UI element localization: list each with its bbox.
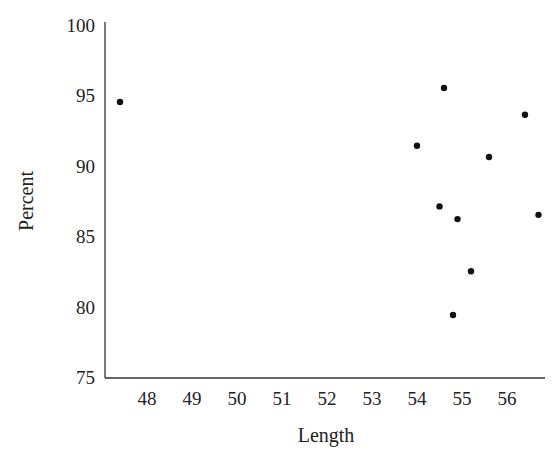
axes — [105, 22, 545, 378]
data-point — [535, 212, 541, 218]
x-tick-labels: 484950515253545556 — [138, 388, 517, 409]
data-points — [117, 85, 542, 318]
y-tick-label: 80 — [76, 297, 95, 318]
y-tick-label: 75 — [76, 367, 95, 388]
x-tick-label: 52 — [318, 388, 337, 409]
x-tick-label: 50 — [228, 388, 247, 409]
y-tick-labels: 7580859095100 — [67, 15, 96, 389]
x-tick-label: 53 — [363, 388, 382, 409]
y-tick-label: 95 — [76, 85, 95, 106]
data-point — [486, 154, 492, 160]
data-point — [450, 312, 456, 318]
y-tick-label: 100 — [67, 15, 96, 36]
data-point — [454, 216, 460, 222]
data-point — [436, 203, 442, 209]
x-axis-label: Length — [298, 424, 355, 447]
y-tick-label: 90 — [76, 156, 95, 177]
data-point — [468, 268, 474, 274]
x-tick-label: 54 — [408, 388, 428, 409]
x-tick-label: 49 — [183, 388, 202, 409]
x-tick-label: 56 — [498, 388, 517, 409]
data-point — [441, 85, 447, 91]
data-point — [414, 143, 420, 149]
scatter-chart: 7580859095100 484950515253545556 Length … — [0, 0, 553, 462]
x-tick-label: 55 — [453, 388, 472, 409]
y-axis-label: Percent — [15, 171, 37, 231]
data-point — [522, 112, 528, 118]
y-tick-label: 85 — [76, 226, 95, 247]
x-tick-label: 51 — [273, 388, 292, 409]
data-point — [117, 99, 123, 105]
x-tick-label: 48 — [138, 388, 157, 409]
